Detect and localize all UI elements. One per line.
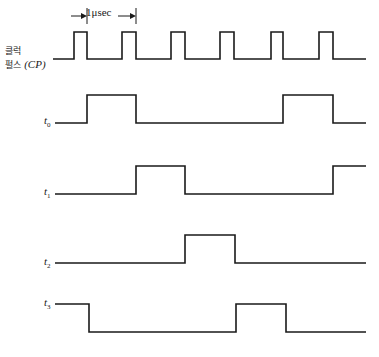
clock-waveform [53,32,366,59]
signal-label-t2: t2 [44,256,51,272]
arrow-right-icon [130,13,136,19]
clock-label-line2: 펄스 (CP) [5,59,46,71]
clock-label-abbr: (CP) [24,58,45,70]
signal-label-t3: t3 [44,297,51,313]
clock-label-line1: 클럭 [5,46,21,57]
waveform-t3 [55,304,366,332]
timing-diagram [0,0,379,357]
waveform-t0 [55,95,366,123]
signal-label-t1: t1 [44,186,51,202]
clock-label-korean: 펄스 [5,60,21,70]
waveform-t2 [55,235,366,263]
signal-label-t0: t0 [44,115,51,131]
period-annotation: 1μsec [86,7,111,18]
waveform-t1 [55,166,366,194]
